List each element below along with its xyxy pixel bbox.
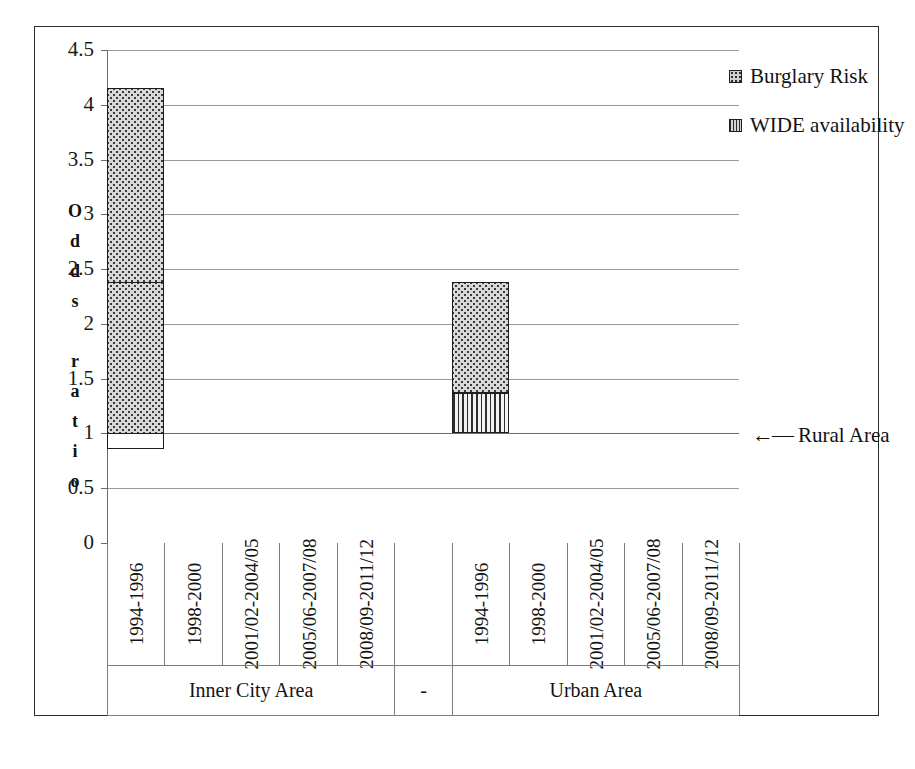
category-label: 2008/09-2011/12 bbox=[701, 539, 720, 669]
y-axis-tick-label: 2.5 bbox=[40, 258, 94, 279]
category-label-cell: 1998-2000 bbox=[164, 543, 221, 665]
legend-label: WIDE availability bbox=[750, 115, 905, 136]
category-label: 2005/06-2007/08 bbox=[299, 539, 318, 670]
y-axis-tick-label: 2 bbox=[40, 313, 94, 334]
category-label-cell: 2005/06-2007/08 bbox=[279, 543, 336, 665]
legend-swatch-icon bbox=[729, 70, 742, 83]
plot-area bbox=[107, 50, 739, 543]
category-label-cell: 2001/02-2004/05 bbox=[567, 543, 624, 665]
legend-swatch-icon bbox=[729, 119, 742, 132]
category-table-right-edge bbox=[739, 543, 740, 665]
y-axis-title: O d d s r a t i o bbox=[62, 196, 88, 496]
category-label: 2001/02-2004/05 bbox=[586, 539, 605, 670]
group-row-right-edge bbox=[739, 665, 740, 715]
category-gap-cell bbox=[394, 543, 451, 665]
category-label: 2005/06-2007/08 bbox=[644, 539, 663, 670]
bar-segment-burglary-risk[interactable] bbox=[107, 282, 164, 449]
chart-root: O d d s r a t i o 4.543.532.521.510.50 B… bbox=[0, 0, 915, 769]
category-label-cell: 2001/02-2004/05 bbox=[222, 543, 279, 665]
group-label: Inner City Area bbox=[189, 680, 313, 700]
group-label-cell: Inner City Area bbox=[107, 665, 394, 715]
category-label-cell: 2005/06-2007/08 bbox=[624, 543, 681, 665]
category-table-bottom-border bbox=[107, 715, 739, 716]
bar-segment-burglary-risk[interactable] bbox=[452, 282, 509, 393]
legend-item-burglary-risk[interactable]: Burglary Risk bbox=[729, 66, 868, 87]
category-label: 1994-1996 bbox=[127, 563, 146, 645]
category-label-cell: 1994-1996 bbox=[452, 543, 509, 665]
group-label: Urban Area bbox=[549, 680, 642, 700]
y-axis-tick-label: 3 bbox=[40, 203, 94, 224]
category-label: 1998-2000 bbox=[529, 563, 548, 645]
category-label-cell: 1998-2000 bbox=[509, 543, 566, 665]
bar-segment-below-baseline[interactable] bbox=[107, 433, 164, 448]
category-label-cell: 2008/09-2011/12 bbox=[337, 543, 394, 665]
y-axis-tick-label: 1 bbox=[40, 422, 94, 443]
bar-segment-wide-availability[interactable] bbox=[452, 393, 509, 434]
legend-item-wide-availability[interactable]: WIDE availability bbox=[729, 115, 905, 136]
rural-area-label: Rural Area bbox=[798, 425, 890, 446]
y-axis-title-char: d bbox=[62, 226, 88, 256]
y-axis-tick-label: 4 bbox=[40, 94, 94, 115]
rural-area-annotation: ←— Rural Area bbox=[752, 424, 890, 446]
legend-label: Burglary Risk bbox=[750, 66, 868, 87]
category-label: 1998-2000 bbox=[184, 563, 203, 645]
y-axis-tick-label: 4.5 bbox=[40, 39, 94, 60]
group-label-cell: - bbox=[394, 665, 451, 715]
category-label: 2001/02-2004/05 bbox=[242, 539, 261, 670]
category-label-cell: 2008/09-2011/12 bbox=[682, 543, 739, 665]
y-axis-tick-label: 3.5 bbox=[40, 149, 94, 170]
left-arrow-icon: ←— bbox=[752, 424, 792, 446]
category-label-cell: 1994-1996 bbox=[107, 543, 164, 665]
group-label: - bbox=[420, 680, 427, 700]
y-axis-tick-label: 1.5 bbox=[40, 368, 94, 389]
y-axis-tick-label: 0.5 bbox=[40, 477, 94, 498]
category-label-table: 1994-19961998-20002001/02-2004/052005/06… bbox=[107, 543, 739, 716]
category-label: 2008/09-2011/12 bbox=[357, 539, 376, 669]
y-axis-tick-label: 0 bbox=[40, 532, 94, 553]
group-label-cell: Urban Area bbox=[452, 665, 739, 715]
category-label: 1994-1996 bbox=[471, 563, 490, 645]
